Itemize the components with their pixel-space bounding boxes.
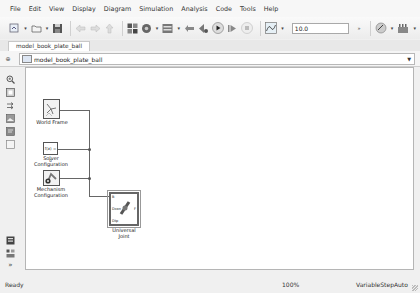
open-dropdown[interactable]: ▾	[45, 25, 50, 31]
new-model-icon	[9, 23, 20, 34]
menu-bar: File Edit View Display Diagram Simulatio…	[0, 0, 420, 17]
new-model-button[interactable]	[9, 22, 20, 34]
model-config-icon	[141, 23, 152, 34]
run-icon	[212, 22, 224, 34]
menu-help[interactable]: Help	[264, 5, 279, 13]
tab-model-book-plate-ball[interactable]: model_book_plate_ball	[8, 41, 90, 51]
simulink-window: File Edit View Display Diagram Simulatio…	[0, 0, 420, 293]
menu-view[interactable]: View	[49, 5, 64, 13]
menu-edit[interactable]: Edit	[29, 5, 41, 13]
model-explorer-icon	[162, 23, 173, 34]
label-line: Configuration	[31, 193, 71, 199]
connection-line[interactable]	[59, 178, 90, 179]
build-button[interactable]	[397, 22, 409, 34]
up-icon	[104, 23, 115, 34]
menu-simulation[interactable]: Simulation	[139, 5, 173, 13]
new-model-dropdown[interactable]: ▾	[23, 25, 28, 31]
block-label-universal-joint: Universal Joint	[106, 228, 142, 239]
back-button[interactable]	[75, 22, 86, 34]
model-icon	[22, 55, 32, 63]
save-button[interactable]	[52, 22, 63, 34]
library-browser-icon	[127, 23, 138, 34]
toolbar-separator	[260, 21, 261, 36]
chevron-down-icon[interactable]: ▼	[407, 54, 411, 64]
block-world-frame[interactable]	[43, 99, 60, 119]
step-back-icon	[184, 23, 195, 34]
arrow-button[interactable]	[5, 100, 16, 110]
model-path-text: model_book_plate_ball	[34, 55, 102, 64]
menu-analysis[interactable]: Analysis	[181, 5, 207, 13]
tab-strip: model_book_plate_ball	[0, 40, 420, 51]
model-explorer-dropdown[interactable]: ▾	[176, 25, 181, 31]
status-state: Ready	[5, 281, 24, 288]
fast-restart-button[interactable]	[375, 22, 387, 34]
menu-diagram[interactable]: Diagram	[104, 5, 131, 13]
menu-code[interactable]: Code	[216, 5, 232, 13]
block-label-mechanism: Mechanism Configuration	[31, 187, 71, 198]
step-back-button[interactable]	[184, 22, 195, 34]
zoom-button[interactable]	[5, 74, 16, 84]
data-inspector-dropdown[interactable]: ▾	[280, 25, 285, 31]
connection-line[interactable]	[89, 178, 90, 197]
model-path-breadcrumb[interactable]: model_book_plate_ball ▼	[19, 53, 415, 65]
toolbar-separator	[370, 21, 371, 36]
toolbar: ▾ ▾ ▾ ▾	[0, 17, 420, 39]
fit-view-button[interactable]	[5, 87, 16, 97]
label-line: Joint	[106, 234, 142, 240]
back-icon	[75, 23, 86, 34]
menu-display[interactable]: Display	[72, 5, 96, 13]
model-canvas[interactable]: World Frame f(x) = 0 Solver Configuratio…	[25, 67, 414, 270]
expand-palette-button[interactable]: »	[5, 260, 16, 270]
fit-view-icon	[6, 88, 15, 97]
model-config-button[interactable]	[141, 22, 152, 34]
annotation-icon	[6, 127, 15, 136]
more-options-button[interactable]: »	[355, 25, 362, 31]
run-button[interactable]	[212, 22, 224, 34]
resize-grip[interactable]	[412, 285, 418, 291]
left-palette: »	[0, 67, 20, 270]
property-inspector-button[interactable]	[5, 248, 16, 258]
model-browser-button[interactable]	[5, 235, 16, 245]
connection-line[interactable]	[59, 110, 89, 111]
stop-icon	[241, 22, 253, 34]
block-label-solver: Solver Configuration	[32, 156, 70, 167]
annotation-button[interactable]	[5, 126, 16, 136]
stop-time-input[interactable]: 10.0	[292, 23, 350, 34]
connection-line[interactable]	[57, 149, 90, 150]
connection-line[interactable]	[89, 110, 90, 178]
image-button[interactable]	[5, 113, 16, 123]
step-back-alt-button[interactable]	[198, 22, 209, 34]
mechanism-configuration-icon	[44, 171, 59, 185]
forward-button[interactable]	[89, 22, 100, 34]
status-solver[interactable]: VariableStepAuto	[356, 281, 408, 288]
area-button[interactable]	[5, 139, 16, 149]
hide-browser-button[interactable]: ⊕	[4, 55, 12, 63]
connection-line[interactable]	[89, 196, 110, 197]
model-explorer-button[interactable]	[162, 22, 173, 34]
fast-restart-dropdown[interactable]: ▾	[390, 25, 395, 31]
status-bar: Ready 100% VariableStepAuto	[0, 271, 420, 293]
universal-joint-icon	[119, 200, 131, 216]
branch-point	[88, 177, 91, 180]
step-forward-button[interactable]	[227, 22, 238, 34]
port-f: F	[134, 207, 136, 211]
property-inspector-icon	[6, 249, 15, 258]
block-label-world-frame: World Frame	[34, 120, 70, 126]
menu-file[interactable]: File	[10, 5, 21, 13]
zoom-icon	[6, 75, 15, 84]
menu-tools[interactable]: Tools	[240, 5, 256, 13]
build-dropdown[interactable]: ▾	[412, 25, 417, 31]
data-inspector-button[interactable]	[265, 22, 277, 34]
area-icon	[6, 140, 15, 149]
library-browser-button[interactable]	[127, 22, 138, 34]
up-button[interactable]	[104, 22, 115, 34]
model-config-dropdown[interactable]: ▾	[155, 25, 160, 31]
label-line: Configuration	[32, 162, 70, 168]
block-mechanism-configuration[interactable]	[43, 170, 60, 186]
block-universal-joint[interactable]: B Dcon Dtp F	[109, 192, 139, 226]
step-forward-icon	[227, 23, 238, 34]
block-solver-configuration[interactable]: f(x) = 0	[43, 142, 58, 155]
open-button[interactable]	[31, 22, 42, 34]
arrow-icon	[6, 101, 15, 110]
stop-button[interactable]	[241, 22, 253, 34]
